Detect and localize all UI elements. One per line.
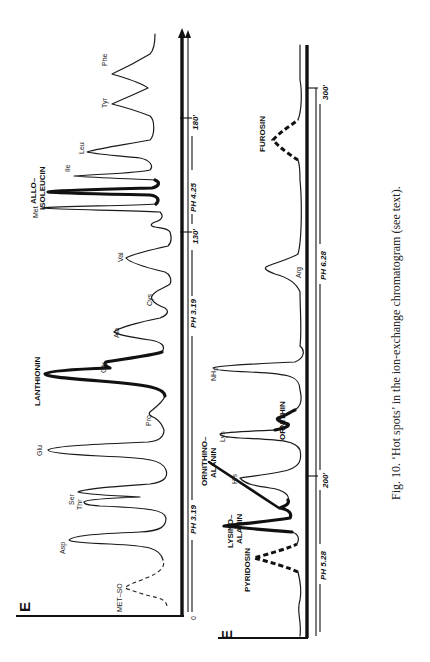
label-t0: 0 [190, 616, 197, 620]
label-pro: Pro [145, 415, 152, 426]
arrow-head-icon [178, 28, 186, 38]
furosin-peak[interactable] [273, 120, 298, 160]
label-glu: Glu [36, 445, 43, 456]
label-gly: Gly [100, 362, 108, 373]
lower-trace-b [292, 532, 298, 544]
upper-trace-3 [74, 34, 155, 180]
figure-caption: Fig. 10. ‘Hot spots’ in the ion-exchange… [389, 186, 403, 500]
label-arg: Arg [295, 267, 303, 278]
label-ph-528: PH 5.28 [319, 551, 328, 580]
label-t180: 180' [191, 114, 200, 130]
label-thr: Thr [76, 499, 83, 510]
arrow-head-icon [185, 30, 191, 38]
label-ph-628: PH 6.28 [319, 251, 328, 280]
label-cys: Cys [146, 293, 154, 306]
ornithino-alanin-line[interactable] [209, 462, 279, 508]
label-leu: Leu [78, 142, 85, 154]
metso-peak [125, 560, 167, 606]
label-lysino-2: ALANIN [235, 514, 244, 544]
label-ornithin: ORNITHIN [278, 401, 287, 440]
lower-trace-c [220, 430, 301, 500]
label-pyridosin: PYRIDOSIN [243, 548, 252, 592]
label-allo-1: ALLO– [29, 177, 38, 204]
pyridosin-peak[interactable] [254, 544, 298, 572]
upper-y-axis-label: E [16, 602, 33, 612]
label-his: His [231, 473, 238, 484]
lower-trace [298, 572, 301, 636]
label-metso: MET–SO [116, 583, 123, 612]
label-ph-319-b: PH 3.19 [189, 299, 198, 328]
label-ornithino-2: ALANIN [209, 448, 218, 478]
chromatogram-figure: MET–SO Asp Thr Ser Glu Pro LANTHIONIN Gl… [0, 0, 430, 662]
upper-trace-2 [42, 204, 171, 352]
label-allo-2: ISOLEUCIN [38, 166, 47, 210]
label-ile: Ile [64, 165, 71, 173]
label-t300: 300' [321, 84, 330, 100]
lower-trace-e [298, 45, 301, 120]
label-phe: Phe [101, 53, 108, 66]
lanthionin-peak[interactable] [45, 352, 165, 396]
upper-labels: MET–SO Asp Thr Ser Glu Pro LANTHIONIN Gl… [29, 53, 200, 620]
label-ala: Ala [113, 328, 120, 338]
label-furosin: FUROSIN [258, 116, 267, 152]
label-lys: Lys [219, 431, 227, 442]
label-asp: Asp [59, 542, 67, 554]
label-nh3: NH3 [210, 368, 219, 381]
label-t200: 200' [321, 472, 330, 489]
label-ser: Ser [68, 493, 75, 505]
label-val: Val [117, 252, 124, 262]
allo-isoleucin-peak[interactable] [48, 180, 158, 204]
label-ph-425: PH 4.25 [189, 183, 198, 212]
lower-chromatogram: PYRIDOSIN LYSINO– ALANIN ORNITHINO– ALAN… [200, 45, 330, 640]
lower-y-axis-label: E [218, 630, 235, 640]
label-lanthionin: LANTHIONIN [33, 356, 42, 406]
label-tyr: Tyr [101, 98, 109, 108]
upper-chromatogram: MET–SO Asp Thr Ser Glu Pro LANTHIONIN Gl… [16, 28, 200, 620]
lower-labels: PYRIDOSIN LYSINO– ALANIN ORNITHINO– ALAN… [200, 84, 330, 632]
lower-trace-d [213, 160, 303, 410]
label-ph-319-a: PH 3.19 [189, 505, 198, 534]
label-lysino-1: LYSINO– [226, 514, 235, 548]
label-ornithino-1: ORNITHINO– [200, 436, 209, 486]
label-t130: 130' [191, 228, 200, 244]
